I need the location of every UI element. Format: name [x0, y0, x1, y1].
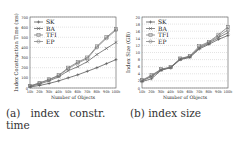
chart-index-size: 0246810121416182010k20k30k40k50k60k70k80… — [122, 0, 244, 100]
x-axis-label: Number of Objects — [51, 95, 96, 100]
marker-sk — [67, 76, 70, 79]
x-axis-label: Number of Objects — [163, 95, 208, 100]
y-tick-label: 700 — [21, 16, 29, 20]
marker-sk — [37, 20, 40, 23]
marker-sk — [226, 34, 229, 37]
x-tick-label: 50k — [177, 90, 185, 94]
legend-label-ep: EP — [158, 38, 166, 45]
x-tick-label: 50k — [65, 90, 73, 94]
y-axis-label: Index Size (GB) — [125, 32, 131, 73]
x-tick-label: 30k — [158, 90, 166, 94]
y-tick-label: 300 — [21, 56, 29, 60]
caption-a: (a) index constr. time — [6, 107, 118, 131]
y-tick-label: 200 — [21, 66, 29, 70]
y-tick-label: 100 — [21, 76, 29, 80]
x-tick-label: 70k — [196, 90, 204, 94]
x-tick-label: 40k — [55, 90, 63, 94]
x-tick-label: 10k — [139, 90, 147, 94]
y-tick-label: 4 — [138, 72, 141, 76]
y-tick-label: 8 — [138, 58, 141, 62]
marker-sk — [149, 20, 152, 23]
y-tick-label: 400 — [21, 46, 29, 50]
x-tick-label: 20k — [148, 90, 156, 94]
series-line-ba — [30, 42, 116, 86]
x-tick-label: 10k — [27, 90, 35, 94]
chart-a-plot: 010020030040050060070010k20k30k40k50k60k… — [0, 0, 122, 100]
marker-ba — [76, 65, 79, 68]
chart-b-plot: 0246810121416182010k20k30k40k50k60k70k80… — [122, 0, 244, 100]
y-tick-label: 20 — [135, 16, 140, 20]
x-tick-label: 100k — [112, 90, 122, 94]
x-tick-label: 30k — [46, 90, 54, 94]
x-tick-label: 70k — [84, 90, 92, 94]
legend-label-ep: EP — [46, 38, 54, 45]
marker-sk — [86, 70, 89, 73]
marker-sk — [95, 66, 98, 69]
y-tick-label: 12 — [135, 44, 140, 48]
y-axis-label: Index Construction Time (ms) — [13, 13, 19, 92]
x-tick-label: 60k — [186, 90, 194, 94]
y-tick-label: 500 — [21, 36, 29, 40]
x-tick-label: 20k — [36, 90, 44, 94]
x-tick-label: 40k — [167, 90, 175, 94]
caption-b: (b) index size — [130, 107, 201, 119]
x-tick-label: 80k — [94, 90, 102, 94]
caption-b-line1: (b) index size — [130, 107, 201, 119]
marker-sk — [114, 58, 117, 61]
y-tick-label: 2 — [138, 79, 140, 83]
series-line-ep — [30, 30, 116, 86]
caption-a-line2: time — [6, 119, 118, 131]
x-tick-label: 60k — [74, 90, 82, 94]
marker-sk — [57, 79, 60, 82]
caption-a-line1: (a) index constr. — [6, 107, 118, 119]
chart-index-construction-time: 010020030040050060070010k20k30k40k50k60k… — [0, 0, 122, 100]
y-tick-label: 14 — [135, 37, 140, 41]
marker-ba — [86, 60, 89, 63]
x-tick-label: 90k — [103, 90, 111, 94]
y-tick-label: 16 — [135, 30, 140, 34]
y-tick-label: 6 — [138, 65, 141, 69]
x-tick-label: 80k — [206, 90, 214, 94]
marker-sk — [105, 62, 108, 65]
y-tick-label: 10 — [135, 51, 140, 55]
x-tick-label: 100k — [224, 90, 234, 94]
marker-ba — [95, 53, 98, 56]
y-tick-label: 18 — [135, 23, 140, 27]
plot-frame — [30, 17, 116, 88]
y-tick-label: 600 — [21, 26, 29, 30]
x-tick-label: 90k — [215, 90, 223, 94]
marker-sk — [76, 73, 79, 76]
